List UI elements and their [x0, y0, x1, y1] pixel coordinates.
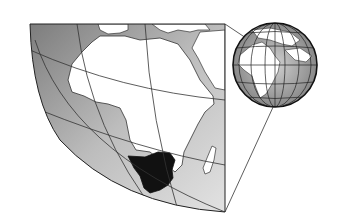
main-map [30, 24, 225, 218]
map-svg [0, 0, 337, 219]
map-figure: Map of Africa with southern Africa regio… [0, 0, 337, 219]
locator-globe [233, 23, 317, 107]
